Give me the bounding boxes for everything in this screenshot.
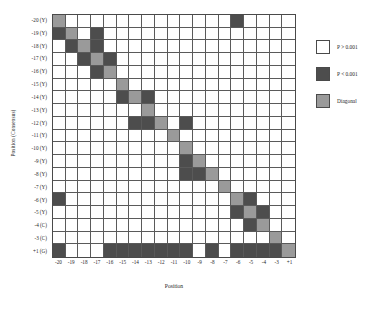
cell-diagonal <box>117 79 130 92</box>
cell-diagonal <box>270 232 283 245</box>
cell-above-threshold <box>104 15 117 28</box>
cell-above-threshold <box>129 104 142 117</box>
cell-above-threshold <box>66 168 79 181</box>
cell-diagonal <box>257 219 270 232</box>
cell-above-threshold <box>282 142 295 155</box>
cell-above-threshold <box>282 232 295 245</box>
cell-significant <box>142 117 155 130</box>
cell-above-threshold <box>117 53 130 66</box>
cell-above-threshold <box>117 104 130 117</box>
x-tick-label: -11 <box>168 260 181 272</box>
x-tick-label: -12 <box>155 260 168 272</box>
cell-above-threshold <box>282 168 295 181</box>
cell-above-threshold <box>104 79 117 92</box>
cell-significant <box>257 244 270 257</box>
cell-above-threshold <box>282 15 295 28</box>
cell-above-threshold <box>129 155 142 168</box>
cell-above-threshold <box>180 79 193 92</box>
cell-significant <box>117 91 130 104</box>
cell-diagonal <box>282 244 295 257</box>
x-tick-label: -14 <box>129 260 142 272</box>
cell-above-threshold <box>244 130 257 143</box>
cell-above-threshold <box>155 79 168 92</box>
cell-above-threshold <box>270 168 283 181</box>
cell-above-threshold <box>142 53 155 66</box>
cell-above-threshold <box>219 104 232 117</box>
cell-above-threshold <box>282 66 295 79</box>
legend-label: P < 0.001 <box>337 71 358 77</box>
cell-above-threshold <box>219 40 232 53</box>
cell-above-threshold <box>206 28 219 41</box>
cell-above-threshold <box>206 193 219 206</box>
legend-label: P > 0.001 <box>337 44 358 50</box>
cell-above-threshold <box>180 219 193 232</box>
cell-above-threshold <box>117 40 130 53</box>
x-tick-label: -18 <box>78 260 91 272</box>
cell-above-threshold <box>155 53 168 66</box>
cell-above-threshold <box>244 66 257 79</box>
cell-above-threshold <box>129 79 142 92</box>
cell-above-threshold <box>78 117 91 130</box>
cell-above-threshold <box>206 40 219 53</box>
cell-above-threshold <box>257 232 270 245</box>
cell-significant <box>155 244 168 257</box>
cell-above-threshold <box>142 181 155 194</box>
cell-above-threshold <box>206 15 219 28</box>
cell-significant <box>104 53 117 66</box>
cell-above-threshold <box>142 28 155 41</box>
cell-above-threshold <box>129 15 142 28</box>
cell-significant <box>78 53 91 66</box>
cell-above-threshold <box>66 219 79 232</box>
cell-above-threshold <box>282 53 295 66</box>
cell-above-threshold <box>219 79 232 92</box>
cell-above-threshold <box>104 91 117 104</box>
cell-above-threshold <box>231 117 244 130</box>
cell-above-threshold <box>168 206 181 219</box>
cell-above-threshold <box>193 193 206 206</box>
cell-above-threshold <box>257 104 270 117</box>
x-axis-tick-labels: -20-19-18-17-16-15-14-13-12-11-10-9-8-7-… <box>52 260 296 272</box>
cell-above-threshold <box>282 219 295 232</box>
y-axis-title: Position (Consensus) <box>10 68 16 198</box>
cell-diagonal <box>104 66 117 79</box>
x-tick-label: -7 <box>219 260 232 272</box>
cell-above-threshold <box>91 181 104 194</box>
cell-above-threshold <box>142 193 155 206</box>
cell-above-threshold <box>53 79 66 92</box>
cell-above-threshold <box>193 79 206 92</box>
cell-above-threshold <box>270 28 283 41</box>
cell-above-threshold <box>219 142 232 155</box>
y-tick-label: -15 (Y) <box>18 78 50 91</box>
cell-above-threshold <box>231 181 244 194</box>
cell-above-threshold <box>282 193 295 206</box>
cell-above-threshold <box>53 219 66 232</box>
cell-above-threshold <box>142 232 155 245</box>
cell-above-threshold <box>155 168 168 181</box>
cell-above-threshold <box>91 168 104 181</box>
cell-above-threshold <box>129 40 142 53</box>
y-axis-tick-labels: -20 (Y)-19 (Y)-18 (Y)-17 (Y)-16 (Y)-15 (… <box>18 14 50 258</box>
y-tick-label: -13 (Y) <box>18 104 50 117</box>
cell-above-threshold <box>282 40 295 53</box>
cell-above-threshold <box>155 91 168 104</box>
cell-above-threshold <box>219 28 232 41</box>
cell-above-threshold <box>244 168 257 181</box>
cell-above-threshold <box>257 91 270 104</box>
cell-above-threshold <box>180 232 193 245</box>
cell-above-threshold <box>66 193 79 206</box>
cell-significant <box>91 40 104 53</box>
cell-above-threshold <box>168 66 181 79</box>
cell-above-threshold <box>91 79 104 92</box>
cell-above-threshold <box>270 130 283 143</box>
cell-significant <box>180 155 193 168</box>
cell-above-threshold <box>270 53 283 66</box>
cell-above-threshold <box>168 53 181 66</box>
x-tick-label: -10 <box>180 260 193 272</box>
y-tick-label: -5 (Y) <box>18 207 50 220</box>
legend-swatch-icon <box>316 94 330 108</box>
cell-above-threshold <box>219 66 232 79</box>
y-tick-label: -12 (Y) <box>18 117 50 130</box>
cell-significant <box>231 244 244 257</box>
cell-significant <box>53 193 66 206</box>
cell-significant <box>117 244 130 257</box>
